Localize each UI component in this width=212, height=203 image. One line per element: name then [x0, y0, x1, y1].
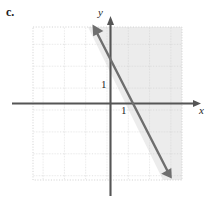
x-tick-label-1: 1: [121, 104, 127, 116]
coordinate-plane-svg: [0, 0, 212, 203]
y-axis-label: y: [98, 6, 103, 18]
figure-container: c.: [0, 0, 212, 203]
x-axis-label: x: [199, 104, 204, 116]
y-tick-label-1: 1: [101, 78, 107, 90]
plot-area: y x 1 1: [0, 0, 212, 203]
